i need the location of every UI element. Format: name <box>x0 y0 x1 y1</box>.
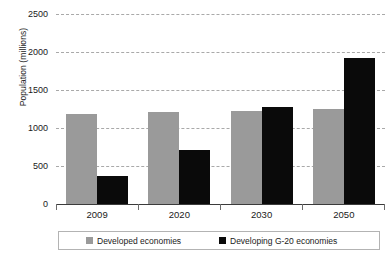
x-axis-tick <box>302 204 303 210</box>
bar-chart-figure: Population (millions) 050010001500200025… <box>0 0 389 268</box>
x-axis-tick <box>384 204 385 210</box>
chart-legend: Developed economies Developing G-20 econ… <box>58 231 380 250</box>
legend-label-developed: Developed economies <box>97 236 181 246</box>
y-axis-tick-label: 500 <box>0 161 48 171</box>
legend-swatch-icon <box>219 237 226 244</box>
plot-area <box>56 14 385 204</box>
legend-item-developing: Developing G-20 economies <box>219 232 337 249</box>
x-axis-label-2020: 2020 <box>139 209 219 220</box>
bar-group <box>231 14 293 204</box>
y-axis-tick-label: 2500 <box>0 9 48 19</box>
x-axis-label-2030: 2030 <box>222 209 302 220</box>
bar-group <box>66 14 128 204</box>
legend-swatch-icon <box>86 237 93 244</box>
y-axis-title: Population (millions) <box>18 0 28 137</box>
bar-2050-developing <box>344 58 375 204</box>
x-axis-label-2050: 2050 <box>304 209 384 220</box>
y-axis-tick-label: 1500 <box>0 85 48 95</box>
bar-2020-developing <box>179 150 210 204</box>
legend-label-developing: Developing G-20 economies <box>230 236 337 246</box>
bars-layer <box>56 14 385 204</box>
bar-2030-developing <box>262 107 293 204</box>
x-axis-label-2009: 2009 <box>57 209 137 220</box>
legend-item-developed: Developed economies <box>86 232 181 249</box>
bar-2009-developing <box>97 176 128 204</box>
y-axis-tick-label: 2000 <box>0 47 48 57</box>
bar-group <box>148 14 210 204</box>
bar-2030-developed <box>231 111 262 204</box>
y-axis-tick-label: 1000 <box>0 123 48 133</box>
bar-2050-developed <box>313 109 344 204</box>
bar-2009-developed <box>66 114 97 204</box>
bar-2020-developed <box>148 112 179 204</box>
x-axis-line <box>56 204 385 205</box>
y-axis-tick-label: 0 <box>0 199 48 209</box>
bar-group <box>313 14 375 204</box>
